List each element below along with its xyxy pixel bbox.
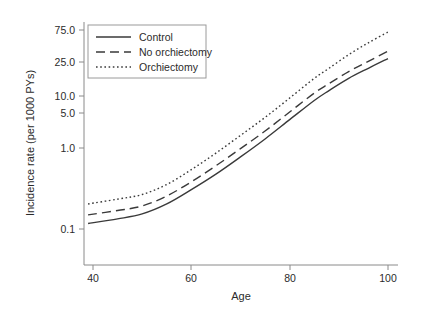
y-tick-label: 10.0 [55, 90, 76, 102]
y-tick-label: 0.1 [60, 223, 75, 235]
chart-canvas: 75.0 25.0 10.0 5.0 1.0 0.1 40 60 80 100 … [0, 0, 425, 319]
x-tick-label: 100 [379, 272, 397, 284]
y-axis-title: Incidence rate (per 1000 PYs) [24, 70, 36, 216]
legend-label-no-orchiectomy[interactable]: No orchiectomy [139, 46, 213, 58]
x-tick-label: 60 [185, 272, 197, 284]
y-tick-label: 75.0 [55, 24, 76, 36]
y-tick-label: 5.0 [60, 107, 75, 119]
x-axis-title: Age [231, 290, 251, 302]
legend-label-control[interactable]: Control [139, 31, 173, 43]
y-tick-label: 25.0 [55, 56, 76, 68]
chart-figure: 75.0 25.0 10.0 5.0 1.0 0.1 40 60 80 100 … [0, 0, 425, 319]
figure-background [0, 0, 425, 319]
x-tick-label: 80 [284, 272, 296, 284]
chart-legend[interactable]: Control No orchiectomy Orchiectomy [88, 25, 213, 78]
x-tick-label: 40 [87, 272, 99, 284]
y-tick-label: 1.0 [60, 142, 75, 154]
legend-label-orchiectomy[interactable]: Orchiectomy [139, 61, 199, 73]
